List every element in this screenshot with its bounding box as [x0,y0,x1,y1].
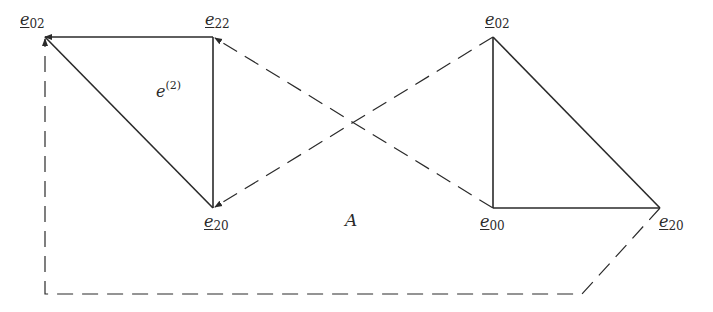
label-subscript: 20 [213,219,228,233]
vertex-label-left-e22: e22 [205,12,230,30]
vertex-label-right-e00: e00 [480,214,505,232]
simplex-label: e(2) [156,80,181,100]
vertex-label-left-e02: e02 [20,12,45,30]
dashed-e20-to-e02-outer [45,39,660,294]
dashed-e02-to-e20 [215,37,493,207]
diagram-canvas [0,0,713,312]
edge-e02-e20 [493,37,660,208]
label-subscript: 02 [29,17,44,31]
label-subscript: 20 [668,219,683,233]
label-subscript: 22 [214,17,229,31]
right-triangle [493,37,660,208]
edge-e02-e20 [45,37,213,208]
vertex-label-left-e20: e20 [204,214,229,232]
vertex-label-right-e02: e02 [485,12,510,30]
left-triangle [45,37,213,208]
region-label-a: A [345,212,357,229]
dashed-maps [45,37,660,294]
label-subscript: 00 [489,219,504,233]
vertex-label-right-e20: e20 [659,214,684,232]
label-superscript: (2) [165,79,181,92]
label-subscript: 02 [494,17,509,31]
dashed-e00-to-e22 [215,38,493,208]
